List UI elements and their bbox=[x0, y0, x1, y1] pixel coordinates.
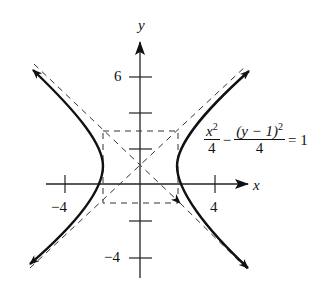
fraction-x-term: x2 4 bbox=[204, 123, 220, 157]
minus-sign: − bbox=[220, 132, 234, 149]
y-tick-label-6: 6 bbox=[114, 69, 122, 84]
hyperbola-equation: x2 4 − (y − 1)2 4 = 1 bbox=[204, 123, 311, 157]
x-tick-label-neg4: −4 bbox=[51, 200, 67, 215]
y-axis-label: y bbox=[138, 18, 145, 33]
hyperbola-figure: y x 6 −4 −4 4 x2 4 − (y − 1)2 4 = 1 bbox=[0, 0, 336, 301]
asymptote-positive-slope bbox=[30, 66, 246, 268]
axes bbox=[46, 42, 248, 278]
left-branch-upper bbox=[33, 70, 103, 166]
asymptote-negative-slope bbox=[34, 64, 180, 203]
y-tick-label-neg4: −4 bbox=[104, 250, 120, 265]
right-branch-lower bbox=[177, 166, 248, 268]
x-tick-label-4: 4 bbox=[210, 200, 218, 215]
left-branch-lower bbox=[30, 166, 103, 264]
equals-one: = 1 bbox=[285, 132, 311, 149]
x-axis-label: x bbox=[253, 178, 260, 193]
fraction-y-term: (y − 1)2 4 bbox=[234, 123, 285, 157]
